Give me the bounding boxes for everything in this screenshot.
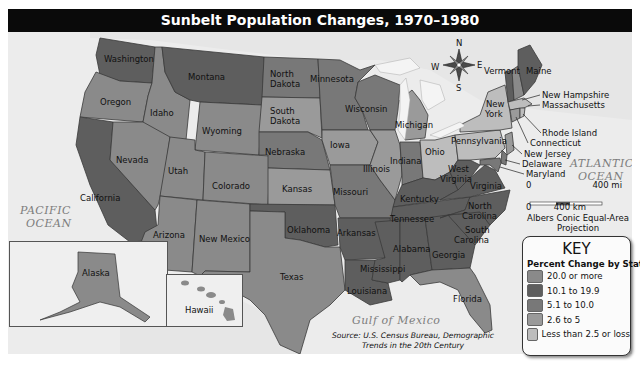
legend-swatch	[527, 284, 543, 297]
label-kentucky: Kentucky	[400, 194, 439, 204]
label-louisiana: Louisiana	[347, 286, 387, 296]
label-wisconsin: Wisconsin	[345, 104, 387, 114]
label-massachusetts: Massachusetts	[542, 100, 605, 110]
label-iowa: Iowa	[330, 140, 350, 150]
label-hawaii: Hawaii	[185, 305, 213, 315]
label-vermont: Vermont	[484, 66, 521, 76]
label-montana: Montana	[188, 72, 225, 82]
label-rhode-island: Rhode Island	[542, 128, 597, 138]
legend-heading: KEY	[523, 240, 630, 258]
label-new-hampshire: New Hampshire	[542, 90, 609, 100]
label-idaho: Idaho	[150, 108, 174, 118]
label-washington: Washington	[104, 54, 154, 64]
legend-item: Less than 2.5 or loss	[523, 327, 630, 342]
legend-item: 2.6 to 5	[523, 313, 630, 328]
label-illinois: Illinois	[363, 164, 391, 174]
scale-km-label: 400 km	[554, 202, 586, 212]
label-pennsylvania: Pennsylvania	[451, 136, 507, 146]
state-delaware	[501, 150, 507, 165]
label-south-carolina-1: South	[465, 225, 490, 235]
label-north-carolina-2: Carolina	[462, 211, 497, 221]
source-line-1: Source: U.S. Census Bureau, Demographic	[332, 331, 494, 341]
label-delaware: Delaware	[522, 159, 562, 169]
legend-swatch	[527, 299, 543, 312]
label-colorado: Colorado	[212, 181, 250, 191]
hawaii-map: Hawaii	[167, 275, 242, 326]
projection-line-2: Projection	[522, 223, 634, 233]
label-nevada: Nevada	[116, 155, 148, 165]
map-title: Sunbelt Population Changes, 1970–1980	[8, 9, 632, 32]
state-rhode-island	[520, 108, 525, 118]
label-arizona: Arizona	[153, 230, 185, 240]
label-florida: Florida	[453, 294, 482, 304]
legend-item: 10.1 to 19.9	[523, 284, 630, 299]
compass-n: N	[456, 38, 462, 48]
legend-label: 5.1 to 10.0	[547, 300, 594, 310]
gulf-label: Gulf of Mexico	[352, 314, 440, 327]
lake-huron	[420, 80, 445, 110]
compass-w: W	[431, 62, 440, 72]
label-michigan: Michigan	[395, 120, 433, 130]
compass-s: S	[456, 83, 461, 93]
pacific-ocean-label-2: OCEAN	[26, 217, 72, 230]
label-south-dakota-2: Dakota	[270, 116, 300, 126]
label-oregon: Oregon	[100, 97, 131, 107]
legend-label: 2.6 to 5	[547, 315, 580, 325]
label-tennessee: Tennessee	[389, 214, 434, 224]
legend-subheading: Percent Change by State	[523, 259, 630, 269]
legend-swatch	[527, 328, 538, 341]
legend-swatch	[527, 313, 543, 326]
label-utah: Utah	[168, 166, 188, 176]
label-north-dakota-1: North	[270, 69, 294, 79]
legend-swatch	[527, 270, 543, 283]
label-west-virginia-1: West	[448, 164, 470, 174]
label-south-dakota-1: South	[270, 106, 295, 116]
label-wyoming: Wyoming	[202, 126, 242, 136]
state-connecticut	[510, 108, 520, 122]
label-arkansas: Arkansas	[337, 228, 376, 238]
label-maryland: Maryland	[526, 169, 565, 179]
label-ohio: Ohio	[425, 147, 445, 157]
label-texas: Texas	[279, 272, 304, 282]
label-connecticut: Connecticut	[530, 138, 582, 148]
scale-mi-label: 400 mi	[592, 180, 622, 190]
projection-note: Albers Conic Equal-Area Projection	[522, 213, 634, 233]
label-virginia: Virginia	[470, 181, 502, 191]
source-line-2: Trends in the 20th Century	[332, 341, 494, 351]
label-north-carolina-1: North	[468, 201, 492, 211]
label-new-jersey: New Jersey	[524, 149, 571, 159]
legend-item: 5.1 to 10.0	[523, 298, 630, 313]
alaska-inset: Alaska	[9, 241, 168, 327]
legend-label: 10.1 to 19.9	[547, 286, 599, 296]
projection-line-1: Albers Conic Equal-Area	[522, 213, 634, 223]
label-indiana: Indiana	[390, 156, 421, 166]
label-new-mexico: New Mexico	[199, 234, 250, 244]
label-minnesota: Minnesota	[310, 74, 354, 84]
label-new-york-1: New	[486, 99, 505, 109]
legend-label: 20.0 or more	[547, 271, 603, 281]
label-georgia: Georgia	[432, 250, 465, 260]
atlantic-ocean-label-1: ATLANTIC	[569, 157, 632, 170]
hawaii-inset: Hawaii	[166, 274, 243, 327]
label-missouri: Missouri	[333, 187, 368, 197]
legend-key: KEY Percent Change by State 20.0 or more…	[522, 236, 631, 356]
label-alaska: Alaska	[82, 268, 110, 278]
state-colorado	[203, 152, 270, 205]
label-alabama: Alabama	[393, 244, 430, 254]
label-mississippi: Mississippi	[360, 264, 405, 274]
label-north-dakota-2: Dakota	[270, 79, 300, 89]
label-oklahoma: Oklahoma	[287, 225, 330, 235]
pacific-ocean-label-1: PACIFIC	[19, 204, 71, 217]
compass-e: E	[477, 60, 482, 70]
label-kansas: Kansas	[282, 184, 313, 194]
alaska-map: Alaska	[10, 242, 167, 326]
label-maine: Maine	[526, 66, 552, 76]
source-citation: Source: U.S. Census Bureau, Demographic …	[332, 331, 494, 350]
legend-label: Less than 2.5 or loss	[542, 329, 630, 339]
scale-mi-zero: 0	[526, 180, 531, 190]
scale-km-zero: 0	[526, 202, 531, 212]
label-nebraska: Nebraska	[265, 147, 305, 157]
label-california: California	[80, 193, 120, 203]
label-south-carolina-2: Carolina	[454, 235, 489, 245]
legend-item: 20.0 or more	[523, 269, 630, 284]
